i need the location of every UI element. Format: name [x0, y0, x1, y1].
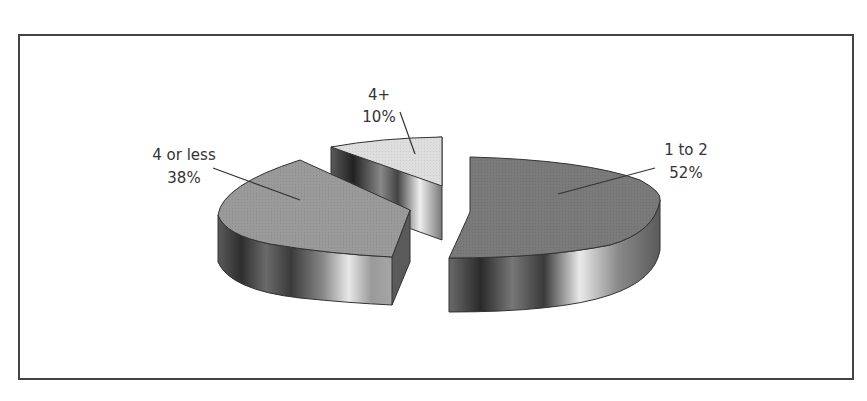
- label-4-or-less-pct: 38%: [167, 169, 200, 187]
- label-4plus-pct: 10%: [362, 108, 395, 126]
- slice-1-to-2: [449, 157, 660, 312]
- label-4plus-name: 4+: [368, 86, 390, 104]
- label-1-to-2-pct: 52%: [669, 164, 702, 182]
- label-1-to-2-name: 1 to 2: [664, 141, 708, 159]
- label-4-or-less-name: 4 or less: [152, 146, 216, 164]
- pie-chart: 4+ 10% 4 or less 38% 1 to 2 52%: [0, 0, 867, 401]
